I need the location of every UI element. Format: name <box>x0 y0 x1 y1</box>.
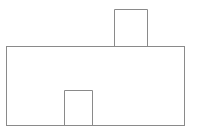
door-rect <box>65 91 93 126</box>
house-diagram <box>0 0 197 130</box>
chimney-rect <box>115 10 148 47</box>
house-drawing <box>0 0 197 130</box>
house-body-rect <box>7 47 185 126</box>
